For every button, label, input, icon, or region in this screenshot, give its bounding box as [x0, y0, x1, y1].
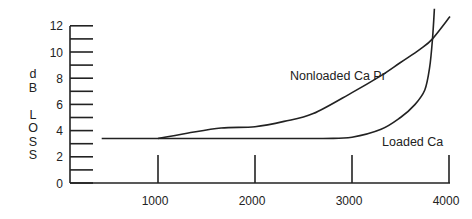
- loaded-ca-label: Loaded Ca: [382, 135, 443, 149]
- y-axis-label-letter: O: [28, 121, 38, 135]
- y-axis-label-letter: d: [30, 67, 37, 81]
- x-axis-ticks: 1000200030004000: [142, 155, 460, 208]
- y-tick-label: 10: [50, 46, 64, 60]
- y-tick-label: 12: [50, 19, 64, 33]
- y-axis-label-letter: S: [29, 148, 37, 162]
- y-axis-label: dBLOSS: [28, 67, 38, 162]
- x-tick-label: 4000: [433, 194, 460, 208]
- y-tick-label: 8: [56, 72, 63, 86]
- curve-labels: Nonloaded Ca PrLoaded Ca: [290, 69, 443, 149]
- nonloaded-ca-pr-label: Nonloaded Ca Pr: [290, 69, 386, 83]
- y-tick-label: 4: [56, 124, 63, 138]
- x-tick-label: 3000: [336, 194, 363, 208]
- x-tick-label: 2000: [239, 194, 266, 208]
- y-axis-label-letter: L: [30, 108, 37, 122]
- y-axis-label-letter: S: [29, 135, 37, 149]
- db-loss-chart: dBLOSS 024681012 1000200030004000 Nonloa…: [0, 0, 472, 219]
- y-axis-ticks: 024681012: [50, 19, 93, 190]
- y-axis-label-letter: B: [29, 81, 37, 95]
- curves: [102, 9, 450, 139]
- x-tick-label: 1000: [142, 194, 169, 208]
- y-tick-label: 0: [56, 177, 63, 191]
- y-tick-label: 2: [56, 150, 63, 164]
- y-tick-label: 6: [56, 98, 63, 112]
